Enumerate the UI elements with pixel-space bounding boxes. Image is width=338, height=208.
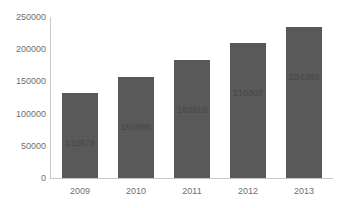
y-axis-tick-label: 100000	[2, 110, 46, 119]
bar-2013[interactable]	[286, 27, 322, 178]
bar-slot: 210307	[220, 17, 276, 178]
x-axis-category-label: 2012	[220, 186, 276, 196]
y-axis-tick-label: 50000	[2, 142, 46, 151]
y-axis-tick-labels: 250000 200000 150000 100000 50000 0	[0, 0, 46, 208]
x-axis-category-label: 2011	[164, 186, 220, 196]
clipped-title-remnant	[22, 0, 182, 2]
x-axis-category-label: 2013	[276, 186, 332, 196]
x-axis-category-label: 2009	[52, 186, 108, 196]
bar-2012[interactable]	[230, 43, 266, 178]
y-axis-tick-label: 200000	[2, 45, 46, 54]
y-axis-tick-label: 150000	[2, 77, 46, 86]
plot-area: 132678 156998 183919 210307 234380	[50, 17, 332, 178]
bar-2011[interactable]	[174, 60, 210, 178]
x-axis-line	[50, 178, 333, 179]
bar-slot: 234380	[276, 17, 332, 178]
y-axis-tick-label: 250000	[2, 13, 46, 22]
bar-slot: 156998	[108, 17, 164, 178]
bar-2009[interactable]	[62, 93, 98, 178]
y-axis-tick-label: 0	[2, 174, 46, 183]
bar-slot: 132678	[52, 17, 108, 178]
bar-2010[interactable]	[118, 77, 154, 178]
x-axis-category-label: 2010	[108, 186, 164, 196]
bar-slot: 183919	[164, 17, 220, 178]
bar-chart: 250000 200000 150000 100000 50000 0 1326…	[0, 0, 338, 208]
